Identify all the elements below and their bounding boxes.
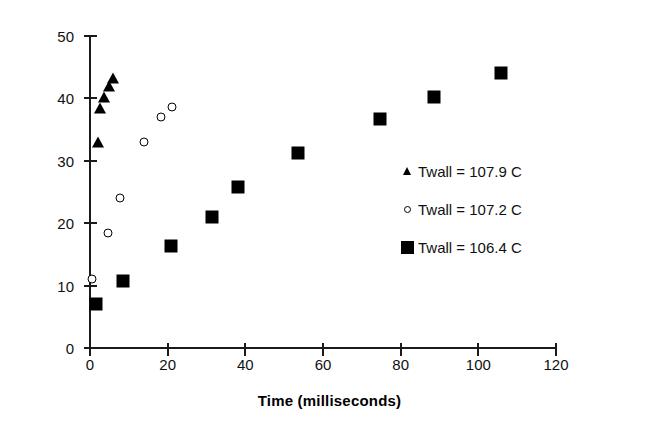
x-tick: 40	[244, 343, 246, 356]
x-tick-label: 60	[315, 357, 332, 372]
y-tick: 20	[84, 222, 97, 224]
data-point-filled-square	[373, 112, 386, 125]
legend-item: Twall = 107.9 C	[396, 152, 596, 190]
data-point-filled-square	[117, 274, 130, 287]
x-tick: 100	[477, 343, 479, 356]
data-point-filled-square	[90, 297, 103, 310]
data-point-filled-square	[231, 181, 244, 194]
data-point-filled-triangle	[98, 92, 110, 103]
x-axis-title: Time (milliseconds)	[0, 392, 659, 409]
data-point-open-circle	[157, 113, 166, 122]
y-tick-label: 40	[57, 91, 74, 106]
x-tick-label: 120	[543, 357, 568, 372]
x-tick: 0	[89, 343, 91, 356]
legend-marker-filled-square-icon	[396, 241, 418, 254]
x-tick: 80	[400, 343, 402, 356]
legend-item-label: Twall = 107.9 C	[418, 163, 522, 180]
data-point-filled-triangle	[107, 73, 119, 84]
y-tick-label: 0	[66, 341, 74, 356]
y-tick: 50	[84, 35, 97, 37]
y-tick: 40	[84, 97, 97, 99]
data-point-open-circle	[103, 228, 112, 237]
data-point-filled-square	[205, 210, 218, 223]
x-tick-label: 100	[466, 357, 491, 372]
data-point-filled-triangle	[94, 102, 106, 113]
data-point-filled-square	[292, 146, 305, 159]
y-tick: 10	[84, 285, 97, 287]
scatter-chart-figure: 01020304050 020406080100120 Bubble Radiu…	[0, 0, 659, 429]
data-point-filled-square	[494, 67, 507, 80]
x-tick: 120	[555, 343, 557, 356]
legend-item: Twall = 106.4 C	[396, 228, 596, 266]
y-tick-label: 30	[57, 153, 74, 168]
x-tick-label: 40	[237, 357, 254, 372]
y-tick-label: 50	[57, 29, 74, 44]
data-point-filled-triangle	[92, 137, 104, 148]
x-tick-label: 20	[159, 357, 176, 372]
x-tick: 60	[322, 343, 324, 356]
data-point-open-circle	[139, 138, 148, 147]
data-point-open-circle	[88, 274, 97, 283]
data-point-open-circle	[167, 103, 176, 112]
y-tick: 30	[84, 160, 97, 162]
y-tick-label: 20	[57, 216, 74, 231]
x-tick-label: 0	[86, 357, 94, 372]
legend-marker-filled-triangle-icon	[396, 167, 418, 175]
x-tick-label: 80	[392, 357, 409, 372]
x-tick: 20	[167, 343, 169, 356]
legend-marker-open-circle-icon	[396, 206, 418, 213]
legend-item-label: Twall = 106.4 C	[418, 239, 522, 256]
data-point-open-circle	[115, 193, 124, 202]
y-tick-label: 10	[57, 278, 74, 293]
data-point-filled-square	[164, 239, 177, 252]
data-point-filled-square	[428, 90, 441, 103]
legend-item-label: Twall = 107.2 C	[418, 201, 522, 218]
legend-item: Twall = 107.2 C	[396, 190, 596, 228]
chart-legend: Twall = 107.9 CTwall = 107.2 CTwall = 10…	[396, 152, 596, 266]
